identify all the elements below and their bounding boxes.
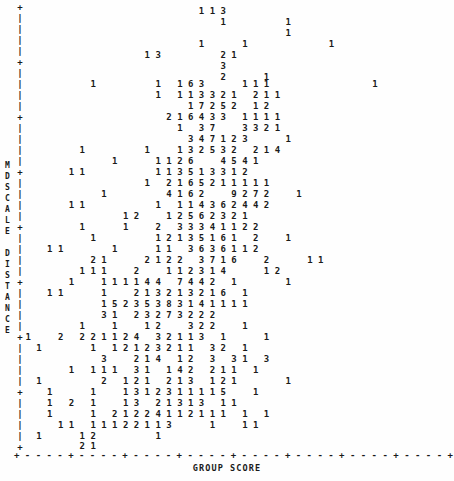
plot-data-row: 1 1 1 3 2 5 3 2 2 1 4	[20, 145, 280, 156]
plot-data-area: 1 1 3 1 1 1 1 1 1 1 3	[20, 2, 454, 448]
plot-data-row: 1 1 1 6 3 1 1 1 1	[20, 79, 378, 90]
plot-data-row: 1 1 1 3 3 2 1 2 1 1	[20, 90, 280, 101]
plot-data-row: 1 7 2 5 2 1 2	[20, 101, 269, 112]
plot-data-row: 1 1 1 2 6 4 5 4 1	[20, 156, 258, 167]
plot-data-row: 1 1	[20, 17, 291, 28]
plot-data-row: 1 2 1 2 5 6 2 3 2 1	[20, 211, 248, 222]
plot-data-row: 1 1 1 1 1 4 4 7 4 4 2 1 1	[20, 277, 291, 288]
plot-data-row: 1 3 2 1	[20, 50, 237, 61]
plot-data-row: 1 1 1	[20, 39, 334, 50]
plot-data-row: 1 3 7 3 3 2 1	[20, 123, 280, 134]
plot-data-row: 1	[20, 28, 291, 39]
plot-data-row: 1 1 1 1 1 3 6 3 6 1 1 2	[20, 244, 258, 255]
ascii-scatter-plot: M D S C A L E D I S T A N C E +||||+||||…	[0, 0, 454, 481]
plot-data-row: 1 1 1 1 1 4 3 6 2 4 4 2	[20, 200, 269, 211]
plot-data-row: 1 1 1 1 1 2 2 1 1 3 1 1 1	[20, 420, 258, 431]
plot-data-row: 1 2 1 6 5 2 1 1 1 1 1	[20, 178, 269, 189]
plot-data-row: 1 2 1 2 1 2 1 3 1 2 1 1	[20, 376, 291, 387]
plot-data-row: 1 1 2 3 3 3 4 1 1 2 2	[20, 222, 258, 233]
plot-data-row: 1 1 1 1 3 5 1 3 3 1 2	[20, 167, 248, 178]
plot-data-row: 2 1 2 1 2 2 3 7 1 6 2 1 1	[20, 255, 323, 266]
plot-data-row: 1 2 1 1 3 2 1 3 1 3 1 1	[20, 398, 237, 409]
plot-data-row: 1 1 1 2 1 2 3 2 1 1 3 2 1	[20, 343, 248, 354]
plot-data-row: 1 2 2 2 1 1 2 4 3 2 1 1 3 1 1	[20, 332, 269, 343]
plot-data-row: 3	[20, 61, 226, 72]
plot-data-row: 2 1 6 4 3 3 1 1 1 1	[20, 112, 280, 123]
plot-data-row: 3 1 2 3 2 7 3 2 2 2	[20, 310, 215, 321]
plot-data-row: 1 4 1 6 2 9 2 7 2 1	[20, 189, 302, 200]
x-axis-title: GROUP SCORE	[0, 463, 454, 473]
plot-data-row: 1 1 2 1 3 5 1 6 1 2 1	[20, 233, 291, 244]
y-axis-title: M D S C A L E D I S T A N C E	[2, 160, 13, 336]
plot-data-row: 1 1 1 2 3 2 2 1	[20, 321, 248, 332]
plot-data-row: 1 1 1 2 1 3 2 1 3 2 1 6 1	[20, 288, 248, 299]
plot-data-row: 3 4 7 1 2 3 1	[20, 134, 291, 145]
plot-data-row: 1 1 1 1 3 1 1 4 2 2 1 1 1	[20, 365, 258, 376]
plot-data-row: 1 5 2 3 5 3 8 3 1 4 1 1 1 1	[20, 299, 248, 310]
x-axis: + - - - - + - - - - + - - - - + - - - - …	[14, 449, 453, 461]
plot-data-row: 1 1 1 2 1 1 2 3 1 4 1 2	[20, 266, 280, 277]
plot-data-row: 1 1 1 3 1 2 3 1 1 1 1 5 1	[20, 387, 258, 398]
plot-data-row: 3 2 1 4 1 2 3 3 1 3	[20, 354, 269, 365]
plot-data-row: 1 1 3	[20, 6, 226, 17]
plot-data-row: 1 1 2 1 2 2 4 1 1 2 1 1 1 1 1	[20, 409, 269, 420]
